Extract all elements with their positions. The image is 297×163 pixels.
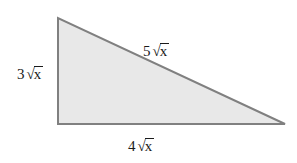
bottom-leg-radical: √x xyxy=(138,139,154,154)
hypotenuse-coefficient: 5 xyxy=(143,43,151,59)
hypotenuse-label: 5√x xyxy=(143,44,168,59)
geometry-figure: 3√x 5√x 4√x xyxy=(0,0,297,163)
left-leg-coefficient: 3 xyxy=(17,66,25,82)
left-leg-label: 3√x xyxy=(17,67,42,82)
hypotenuse-radical: √x xyxy=(153,44,169,59)
bottom-leg-label: 4√x xyxy=(128,139,153,154)
bottom-leg-coefficient: 4 xyxy=(128,138,136,154)
bottom-leg-radicand: x xyxy=(145,139,154,154)
left-leg-radical: √x xyxy=(27,67,43,82)
left-leg-radicand: x xyxy=(34,67,43,82)
right-triangle-polygon xyxy=(58,18,285,124)
hypotenuse-radicand: x xyxy=(160,44,169,59)
